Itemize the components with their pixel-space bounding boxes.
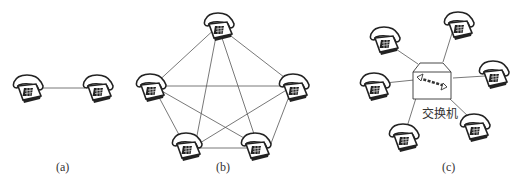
caption-a: (a): [56, 160, 69, 175]
panel-a: [13, 75, 113, 103]
phone-icon: [360, 73, 390, 101]
phone-icon: [136, 74, 166, 102]
phone-icon: [370, 27, 400, 55]
phone-icon: [279, 74, 309, 102]
switch-label: 交换机: [422, 104, 458, 121]
panel-b: [153, 26, 293, 148]
caption-c: (c): [442, 160, 455, 175]
phone-icon: [204, 13, 234, 41]
phone-icon: [83, 75, 113, 103]
caption-b: (b): [216, 160, 230, 175]
phone-icon: [13, 75, 43, 103]
switch-box: [413, 63, 451, 99]
phone-icon: [460, 114, 490, 142]
phone-icon: [444, 12, 474, 40]
phone-icon: [479, 61, 509, 89]
phone-icon: [172, 133, 202, 161]
phone-icon: [241, 133, 271, 161]
phone-icon: [389, 124, 419, 152]
